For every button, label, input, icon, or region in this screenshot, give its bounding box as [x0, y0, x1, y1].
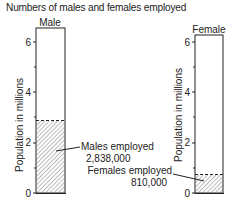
male-annotation-value: 2,838,000 [86, 153, 131, 164]
male-tick-2: 2 [25, 137, 31, 148]
female-tick-2: 2 [184, 137, 190, 148]
female-employed-bar [196, 175, 223, 193]
female-tick-0: 0 [184, 188, 190, 199]
chart-canvas: Male 0 2 4 6 Population in millions Male… [0, 0, 236, 204]
male-tick-4: 4 [25, 87, 31, 98]
female-tick-6: 6 [184, 37, 190, 48]
male-panel-title: Male [39, 17, 61, 28]
female-tick-4: 4 [184, 87, 190, 98]
female-annotation-label: Females employed [88, 165, 172, 176]
female-panel: Female 0 2 4 6 Population in millions Fe… [88, 24, 227, 199]
female-annotation-value: 810,000 [131, 177, 168, 188]
male-annotation-label: Males employed [81, 141, 154, 152]
female-ylabel: Population in millions [173, 68, 184, 162]
female-total-bar [195, 35, 223, 193]
male-tick-0: 0 [25, 188, 31, 199]
female-panel-title: Female [192, 24, 226, 35]
male-employed-bar [37, 121, 65, 193]
male-ylabel: Population in millions [14, 78, 25, 172]
male-tick-6: 6 [25, 37, 31, 48]
